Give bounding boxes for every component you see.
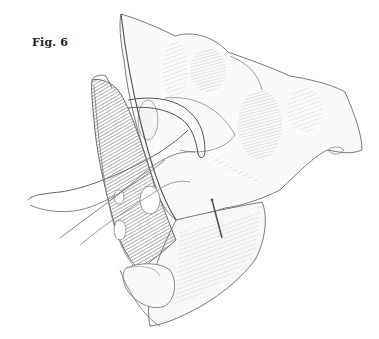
specimen-drawing [0, 0, 379, 339]
sketch-figure: Fig. 6 [0, 0, 379, 339]
